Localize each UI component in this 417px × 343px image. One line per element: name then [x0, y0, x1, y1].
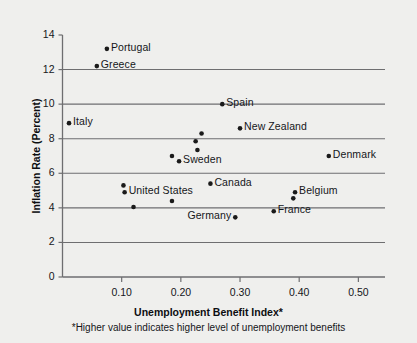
point-label-portugal: Portugal	[111, 41, 151, 53]
data-point	[291, 196, 296, 201]
data-point	[271, 209, 276, 214]
data-point	[208, 181, 213, 186]
chart-footnote: *Higher value indicates higher level of …	[0, 322, 417, 333]
data-point	[238, 126, 243, 131]
data-point	[105, 47, 110, 52]
point-label-italy: Italy	[73, 115, 93, 127]
data-point	[220, 102, 225, 107]
y-tick-label: 12	[29, 63, 55, 75]
point-label-new-zealand: New Zealand	[244, 120, 307, 132]
data-point	[121, 183, 126, 188]
x-tick-label: 0.50	[338, 286, 378, 298]
x-axis-title: Unemployment Benefit Index*	[0, 306, 417, 318]
y-tick-label: 0	[29, 270, 55, 282]
x-tick-label: 0.10	[102, 286, 142, 298]
scatter-plot-figure: 02468101214 0.100.200.300.400.50 Portuga…	[0, 0, 417, 343]
data-point	[122, 190, 127, 195]
data-point	[177, 159, 182, 164]
data-point	[233, 215, 238, 220]
point-label-greece: Greece	[101, 58, 136, 70]
y-tick-label: 2	[29, 235, 55, 247]
data-point	[293, 190, 298, 195]
point-label-france: France	[278, 203, 311, 215]
point-label-sweden: Sweden	[183, 153, 222, 165]
plot-area: 02468101214 0.100.200.300.400.50 Portuga…	[0, 0, 417, 343]
y-axis-title: Inflation Rate (Percent)	[30, 76, 42, 236]
x-tick-label: 0.30	[220, 286, 260, 298]
data-point	[193, 139, 198, 144]
data-point	[199, 131, 204, 136]
data-point	[195, 148, 200, 153]
x-tick-label: 0.40	[279, 286, 319, 298]
data-point	[95, 64, 100, 69]
data-point	[170, 154, 175, 159]
y-tick-label: 14	[29, 28, 55, 40]
data-point	[67, 121, 72, 126]
point-label-canada: Canada	[214, 176, 251, 188]
point-label-denmark: Denmark	[333, 148, 376, 160]
data-point	[326, 154, 331, 159]
data-point	[170, 199, 175, 204]
point-label-belgium: Belgium	[299, 184, 338, 196]
point-label-spain: Spain	[226, 96, 253, 108]
x-tick-label: 0.20	[161, 286, 201, 298]
point-label-united-states: United States	[129, 184, 193, 196]
